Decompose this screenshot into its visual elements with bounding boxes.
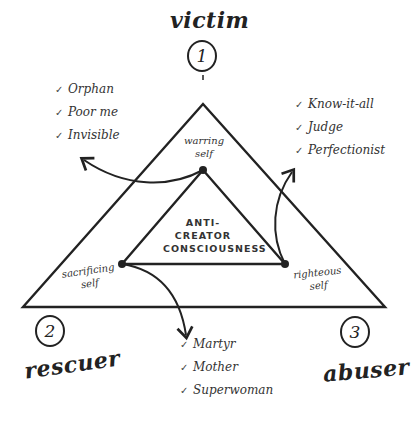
trait-item: ✓Martyr bbox=[180, 333, 273, 356]
victim-traits-list: ✓Orphan ✓Poor me ✓Invisible bbox=[55, 78, 120, 147]
check-icon: ✓ bbox=[295, 122, 303, 133]
check-icon: ✓ bbox=[180, 339, 188, 350]
trait-item: ✓Judge bbox=[295, 116, 385, 139]
role-victim-label: victim bbox=[170, 7, 249, 33]
trait-item: ✓Mother bbox=[180, 356, 273, 379]
check-icon: ✓ bbox=[55, 130, 63, 141]
trait-item: ✓Invisible bbox=[55, 124, 120, 147]
trait-item: ✓Poor me bbox=[55, 101, 120, 124]
warring-self-label: warring self bbox=[176, 134, 232, 160]
trait-item: ✓Know-it-all bbox=[295, 93, 385, 116]
check-icon: ✓ bbox=[295, 99, 303, 110]
check-icon: ✓ bbox=[180, 362, 188, 373]
check-icon: ✓ bbox=[180, 385, 188, 396]
arrow-to-rescuer-traits bbox=[122, 264, 186, 335]
check-icon: ✓ bbox=[55, 84, 63, 95]
trait-item: ✓Perfectionist bbox=[295, 139, 385, 162]
role-abuser-number: 3 bbox=[340, 316, 370, 348]
check-icon: ✓ bbox=[295, 145, 303, 156]
trait-item: ✓Orphan bbox=[55, 78, 120, 101]
check-icon: ✓ bbox=[55, 107, 63, 118]
rescuer-traits-list: ✓Martyr ✓Mother ✓Superwoman bbox=[180, 333, 273, 402]
role-rescuer-number: 2 bbox=[35, 315, 65, 347]
abuser-traits-list: ✓Know-it-all ✓Judge ✓Perfectionist bbox=[295, 93, 385, 162]
role-victim-number: 1 bbox=[187, 40, 217, 72]
trait-item: ✓Superwoman bbox=[180, 379, 273, 402]
center-label: ANTI- CREATOR CONSCIOUSNESS bbox=[163, 216, 243, 255]
